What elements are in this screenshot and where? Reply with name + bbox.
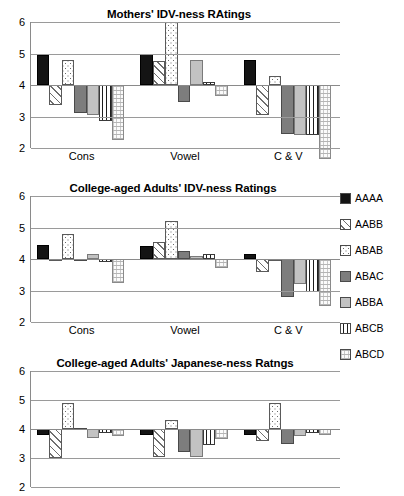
legend-label: ABBA: [355, 296, 383, 308]
bar-vowel-aaaa: [140, 54, 153, 86]
legend-label: AAAA: [355, 192, 383, 204]
gridline: [31, 371, 340, 372]
bar-cons-abba: [87, 429, 100, 438]
x-axis-labels: ConsVowelC & V: [30, 322, 340, 340]
bar-cv-abba: [294, 429, 307, 436]
gridline: [31, 228, 340, 229]
bar-cv-aaaa: [244, 60, 257, 85]
bar-cons-abcd: [112, 429, 125, 436]
bar-vowel-aabb: [153, 242, 166, 259]
bar-cv-abac: [281, 429, 294, 444]
legend-swatch-icon: [340, 245, 351, 256]
bar-cons-aabb: [49, 85, 62, 105]
bar-vowel-abcd: [215, 259, 228, 268]
legend-label: ABAB: [355, 244, 383, 256]
x-axis-category-label: Cons: [69, 150, 95, 162]
bar-cons-abcd: [112, 259, 125, 283]
legend-item-abcd[interactable]: ABCD: [340, 341, 404, 367]
legend-swatch-icon: [340, 297, 351, 308]
gridline: [31, 487, 340, 488]
bar-cv-abba: [294, 85, 307, 135]
y-axis-tick-label: 6: [19, 16, 25, 28]
legend-swatch-icon: [340, 271, 351, 282]
gridline: [31, 85, 340, 86]
bar-vowel-abba: [190, 60, 203, 85]
bar-vowel-abac: [178, 85, 191, 102]
y-axis-tick-label: 6: [19, 190, 25, 202]
legend-label: ABCD: [355, 348, 384, 360]
bar-vowel-aaaa: [140, 246, 153, 259]
chart-panel-college-adults-idv-ness: College-aged Adults' IDV-ness Ratings 65…: [0, 180, 340, 355]
y-axis: 65432: [0, 22, 30, 148]
bar-vowel-abcd: [215, 85, 228, 96]
bar-cons-abab: [62, 60, 75, 85]
bar-cv-abac: [281, 85, 294, 134]
bar-vowel-abcb: [203, 429, 216, 445]
y-axis-tick-label: 5: [19, 222, 25, 234]
bar-vowel-abac: [178, 429, 191, 452]
bar-vowel-abcd: [215, 429, 228, 439]
legend-item-aaaa[interactable]: AAAA: [340, 185, 404, 211]
legend-label: AABB: [355, 218, 383, 230]
legend-item-abba[interactable]: ABBA: [340, 289, 404, 315]
legend-swatch-icon: [340, 193, 351, 204]
x-axis-labels: ConsVowelC & V: [30, 148, 340, 166]
chart-panel-college-adults-japanese-ness: College-aged Adults' Japanese-ness Ratng…: [0, 355, 340, 496]
gridline: [31, 259, 340, 260]
legend-swatch-icon: [340, 323, 351, 334]
legend-label: ABAC: [355, 270, 384, 282]
y-axis: 65432: [0, 371, 30, 487]
legend-item-abac[interactable]: ABAC: [340, 263, 404, 289]
bar-cons-aabb: [49, 429, 62, 458]
y-axis-tick-label: 2: [19, 142, 25, 154]
x-axis-category-label: Vowel: [170, 150, 199, 162]
bar-vowel-aabb: [153, 429, 166, 457]
legend-item-aabb[interactable]: AABB: [340, 211, 404, 237]
legend-item-abcb[interactable]: ABCB: [340, 315, 404, 341]
plot-canvas: [30, 196, 340, 322]
bar-cv-abcb: [306, 85, 319, 135]
gridline: [31, 54, 340, 55]
plot-area: 65432: [0, 371, 340, 487]
gridline: [31, 22, 340, 23]
bar-vowel-abac: [178, 251, 191, 259]
x-axis-category-label: Cons: [69, 324, 95, 336]
y-axis-tick-label: 3: [19, 452, 25, 464]
y-axis-tick-label: 3: [19, 111, 25, 123]
gridline: [31, 429, 340, 430]
bar-vowel-abab: [165, 420, 178, 429]
gridline: [31, 400, 340, 401]
y-axis-tick-label: 4: [19, 423, 25, 435]
plot-area: 65432: [0, 196, 340, 322]
bar-cons-abba: [87, 85, 100, 115]
figure-root: Mothers' IDV-ness RAtings 65432 ConsVowe…: [0, 0, 404, 496]
y-axis: 65432: [0, 196, 30, 322]
bar-cons-abab: [62, 234, 75, 259]
gridline: [31, 291, 340, 292]
bar-cons-abab: [62, 403, 75, 429]
bar-cv-abab: [269, 76, 282, 85]
legend-item-abab[interactable]: ABAB: [340, 237, 404, 263]
chart-title: College-aged Adults' IDV-ness Ratings: [0, 180, 340, 196]
x-axis-category-label: C & V: [274, 150, 303, 162]
chart-panel-mothers-idv-ness: Mothers' IDV-ness RAtings 65432 ConsVowe…: [0, 6, 340, 176]
x-axis-category-label: Vowel: [170, 324, 199, 336]
y-axis-tick-label: 2: [19, 481, 25, 493]
bar-vowel-aabb: [153, 61, 166, 85]
plot-canvas: [30, 371, 340, 487]
gridline: [31, 196, 340, 197]
legend-swatch-icon: [340, 219, 351, 230]
y-axis-tick-label: 6: [19, 365, 25, 377]
plot-canvas: [30, 22, 340, 148]
legend: AAAAAABBABABABACABBAABCBABCD: [340, 185, 404, 367]
bar-cv-aabb: [256, 85, 269, 115]
gridline: [31, 458, 340, 459]
y-axis-tick-label: 3: [19, 285, 25, 297]
bar-cv-abcd: [319, 259, 332, 306]
bar-vowel-abba: [190, 429, 203, 457]
bar-cv-abab: [269, 403, 282, 429]
bar-cv-aabb: [256, 259, 269, 272]
bar-cons-aaaa: [37, 55, 50, 85]
y-axis-tick-label: 4: [19, 253, 25, 265]
bar-cv-aabb: [256, 429, 269, 441]
